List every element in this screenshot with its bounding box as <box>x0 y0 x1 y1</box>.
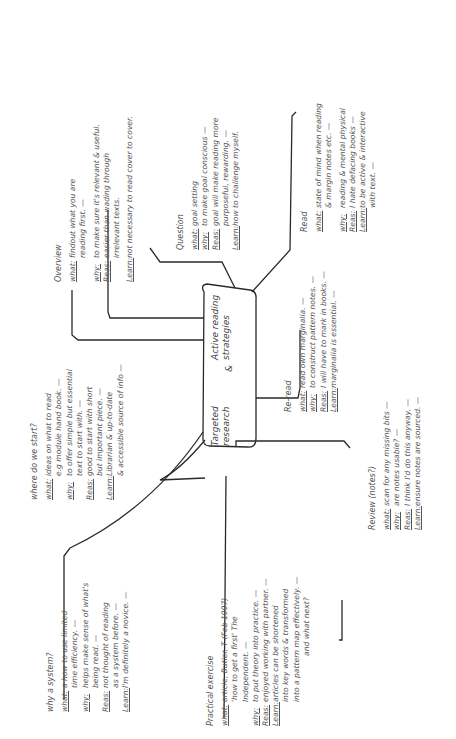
row-value: I hate defacing books — <box>348 116 358 208</box>
row-value: irrelevant texts. <box>112 153 122 258</box>
branch-title: Question <box>176 118 186 250</box>
branch-why-system: why a system? what:a how to use limitedt… <box>46 583 132 712</box>
row-value: to put theory into practice. — <box>251 590 261 702</box>
row-value: good to start with short <box>85 386 95 476</box>
center-amp-text: & <box>224 365 234 372</box>
row-value: Librarian & up-to-date <box>105 364 115 476</box>
row-value: being read. — <box>91 583 101 688</box>
row-value: to be active & interactive <box>358 111 368 208</box>
row-value: ensure notes are sourced. — <box>413 397 423 506</box>
branch-title: why a system? <box>46 583 56 712</box>
row-key: what: <box>44 476 64 500</box>
row-key: Learn: <box>105 476 125 500</box>
branch-reread: Re-read what:read own marginalia. — why:… <box>284 271 339 412</box>
branch-title: Practical exercise <box>206 577 216 726</box>
row-value: Independent. — <box>241 598 251 702</box>
branch-practical: Practical exercise what:article, Butler,… <box>206 577 312 726</box>
center-line2b: strategies <box>221 315 231 360</box>
row-key: Reas: <box>102 258 122 282</box>
row-key: Learn: <box>329 388 339 412</box>
row-value: reading & mental physical <box>338 108 348 208</box>
row-value: not thought of reading <box>101 602 111 688</box>
row-key: Reas: <box>403 506 413 530</box>
mind-map: Targeted research & Active reading strat… <box>0 0 456 739</box>
row-key: why: <box>251 702 261 726</box>
row-value: ideas on what to read <box>44 378 54 476</box>
connector-where-start <box>72 290 204 340</box>
row-key: what: <box>382 506 392 530</box>
row-value: state of mind when reading <box>314 103 324 208</box>
row-key: Learn: <box>271 702 302 726</box>
row-value: to make sure it's relevant & useful. <box>92 124 102 258</box>
row-key: Learn: <box>231 226 241 250</box>
connector-review <box>236 441 350 448</box>
row-value: I will have to mark in books. — <box>319 271 329 388</box>
row-value: articles can be shortened <box>271 577 281 702</box>
row-value: I'm definitely a novice. — <box>121 591 131 688</box>
row-value: purposeful, rewarding. — <box>221 118 231 226</box>
connector-read <box>252 112 296 292</box>
branch-where-start: where do we start? what:ideas on what to… <box>30 364 126 500</box>
row-value: & accessible source of info — <box>116 364 126 476</box>
row-key: why: <box>392 506 402 530</box>
row-value: e.g module hand book. — <box>54 378 64 476</box>
row-key: Reas: <box>261 702 271 726</box>
connector-question <box>150 248 235 288</box>
branch-title: Re-read <box>284 271 294 412</box>
branch-title: Read <box>300 103 310 232</box>
row-value: text to start with. — <box>75 369 85 476</box>
row-value: enjoyed working with partner. — <box>261 578 271 702</box>
row-value: as a system before. — <box>111 602 121 688</box>
row-key: why: <box>200 226 210 250</box>
row-value: I think I'd do this anyway. — <box>403 399 413 506</box>
row-key: Reas: <box>319 388 329 412</box>
branch-overview: Overview what:findout what you arereadin… <box>54 116 135 282</box>
row-value: 'how to get a first' The <box>230 598 240 702</box>
branch-read: Read what:state of mind when reading& ma… <box>300 103 378 232</box>
row-value: time efficiency. — <box>70 611 80 688</box>
row-key: what: <box>220 702 251 726</box>
row-key: what: <box>190 226 200 250</box>
row-value: but important piece. — <box>95 386 105 476</box>
center-line1a: Targeted <box>210 406 220 446</box>
row-value: are notes usable? — <box>392 429 402 506</box>
row-key: why: <box>92 258 102 282</box>
row-value: not necessary to read cover to cover. <box>125 116 135 258</box>
row-key: Reas: <box>85 476 105 500</box>
row-key: Learn: <box>125 258 135 282</box>
branch-title: Review (notes?) <box>368 397 378 530</box>
center-amp: & <box>224 365 235 372</box>
row-value: article, Butler, T (Feb 1997) <box>220 598 230 702</box>
row-key: what: <box>298 388 308 412</box>
row-value: into a pattern map effectively. — <box>292 577 302 702</box>
center-line2a: Active reading <box>210 295 220 360</box>
row-key: Reas: <box>211 226 231 250</box>
row-value: to offer simple but essential <box>65 369 75 476</box>
row-value: findout what you are <box>68 179 78 258</box>
row-key: Learn: <box>413 506 423 530</box>
row-key: why: <box>65 476 85 500</box>
row-key: what: <box>60 688 80 712</box>
row-value: reading first. — <box>78 179 88 258</box>
row-value: goal will make reading more <box>211 118 221 226</box>
row-value: how to challenge myself. <box>231 131 241 226</box>
branch-review: Review (notes?) what:scan for any missin… <box>368 397 423 530</box>
row-key: Reas: <box>348 208 358 232</box>
center-topic: Targeted research <box>210 406 232 446</box>
row-value: a how to use limited <box>60 611 70 688</box>
row-key: Learn: <box>358 208 378 232</box>
center-topic-2: Active reading strategies <box>210 295 232 360</box>
row-key: what: <box>314 208 334 232</box>
and-what-next: and what next? <box>302 597 311 656</box>
row-value: scan for any missing bits — <box>382 401 392 506</box>
row-value: into key words & transformed <box>281 577 291 702</box>
row-value: & margin notes etc. — <box>324 103 334 208</box>
and-what-next-bracket <box>339 600 342 640</box>
row-key: what: <box>68 258 88 282</box>
row-key: why: <box>308 388 318 412</box>
branch-title: where do we start? <box>30 364 40 500</box>
row-value: read own marginalia. — <box>298 297 308 388</box>
row-value: marginalia is essential. — <box>329 290 339 388</box>
row-key: why: <box>338 208 348 232</box>
row-value: easier than wading through <box>102 153 112 258</box>
